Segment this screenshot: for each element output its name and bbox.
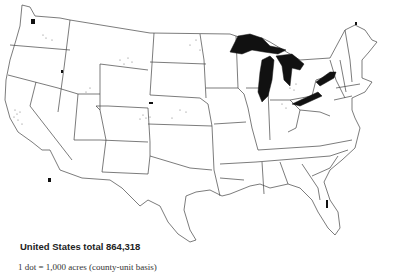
state-boundaries <box>5 5 377 242</box>
lake-michigan <box>258 56 274 102</box>
map-total-label: United States total 864,318 <box>20 241 140 252</box>
us-map <box>0 0 407 279</box>
lake-huron <box>276 54 304 86</box>
map-legend: 1 dot = 1,000 acres (county-unit basis) <box>18 262 157 272</box>
great-lakes <box>230 34 336 106</box>
lake-superior <box>230 34 286 54</box>
dot-clusters <box>13 19 357 208</box>
